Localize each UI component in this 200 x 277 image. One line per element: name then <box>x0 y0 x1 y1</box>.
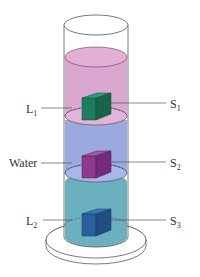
liquid-layers-diagram: L1 S1 Water S2 L2 S3 <box>0 0 200 277</box>
solid-s2-cube <box>82 151 111 178</box>
label-s2: S2 <box>170 156 181 172</box>
label-s3: S3 <box>170 214 181 230</box>
label-l2: L2 <box>26 214 37 230</box>
label-s1: S1 <box>170 97 181 113</box>
label-water: Water <box>9 156 37 170</box>
solid-s1-cube <box>82 93 111 120</box>
label-l1: L1 <box>26 102 37 118</box>
solid-s3-cube <box>82 209 111 236</box>
